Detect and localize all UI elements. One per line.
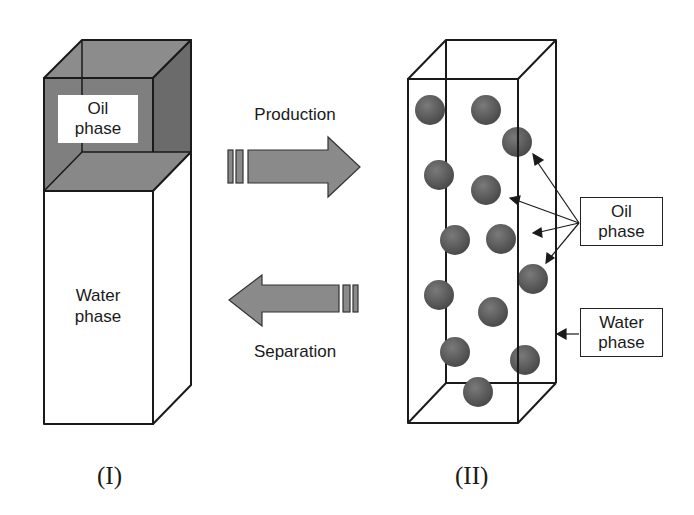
separation-label: Separation	[230, 341, 360, 362]
caption-left: (I)	[97, 462, 122, 490]
separation-arrow	[229, 275, 358, 326]
right-water-phase-label: Water phase	[580, 308, 663, 357]
oil-label-line1: Oil	[88, 99, 109, 119]
oil-droplets	[415, 95, 548, 407]
caption-right: (II)	[455, 462, 488, 490]
oil-pointer-arrows	[510, 154, 579, 263]
oil-label-line1: Oil	[611, 202, 632, 222]
production-arrow	[228, 137, 360, 197]
left-oil-phase-label: Oil phase	[58, 95, 138, 143]
oil-label-line2: phase	[75, 119, 121, 139]
right-oil-phase-label: Oil phase	[580, 197, 663, 246]
diagram-canvas	[0, 0, 694, 515]
oil-label-line2: phase	[598, 222, 644, 242]
production-label: Production	[230, 104, 360, 125]
water-pointer-arrow	[557, 329, 579, 339]
water-label-line2: phase	[58, 306, 138, 327]
water-label-line1: Water	[58, 285, 138, 306]
left-water-phase-label: Water phase	[58, 285, 138, 327]
water-label-line2: phase	[598, 333, 644, 353]
water-label-line1: Water	[599, 313, 644, 333]
